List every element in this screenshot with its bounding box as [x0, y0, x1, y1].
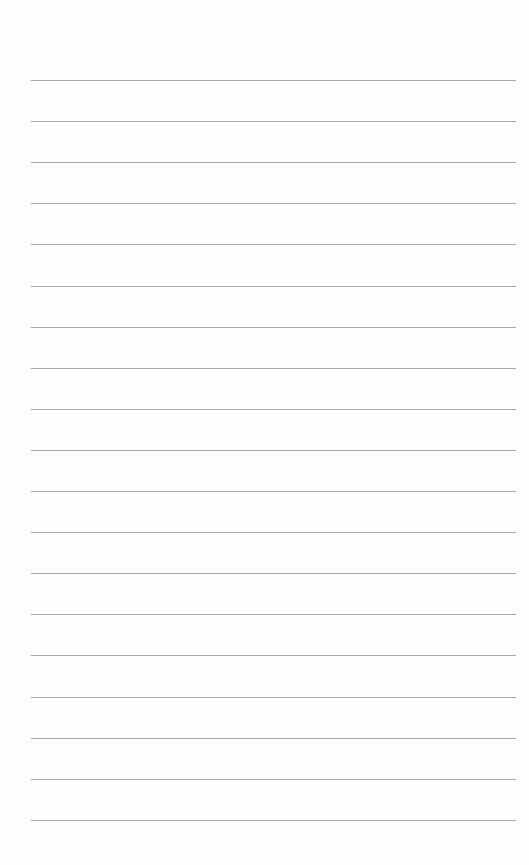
ruled-line: [31, 121, 516, 122]
ruled-line: [31, 697, 516, 698]
ruled-line: [31, 779, 516, 780]
ruled-line: [31, 409, 516, 410]
ruled-line: [31, 286, 516, 287]
ruled-line: [31, 738, 516, 739]
ruled-line: [31, 203, 516, 204]
ruled-line: [31, 820, 516, 821]
ruled-line: [31, 368, 516, 369]
ruled-line: [31, 532, 516, 533]
ruled-line: [31, 614, 516, 615]
ruled-line: [31, 573, 516, 574]
ruled-line: [31, 80, 516, 81]
ruled-line: [31, 450, 516, 451]
lined-page: [0, 0, 529, 865]
ruled-line: [31, 327, 516, 328]
ruled-line: [31, 162, 516, 163]
ruled-line: [31, 491, 516, 492]
ruled-line: [31, 244, 516, 245]
ruled-line: [31, 655, 516, 656]
